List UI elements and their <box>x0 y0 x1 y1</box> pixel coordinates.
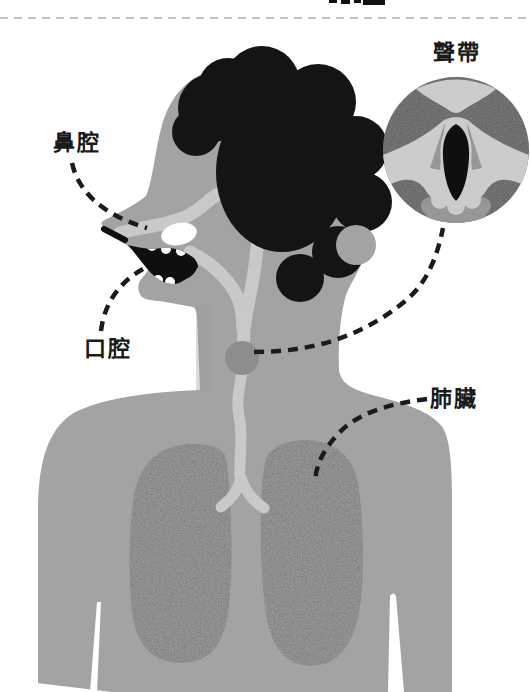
neck-shadow <box>196 305 212 391</box>
illustration-page: 鼻腔 口腔 聲帶 肺臟 <box>0 0 530 692</box>
right-lung <box>261 440 363 666</box>
label-nasal-cavity: 鼻腔 <box>53 132 101 154</box>
oral-leader-line <box>101 269 143 331</box>
inset-glottis <box>443 124 469 201</box>
anatomy-illustration <box>0 0 530 692</box>
label-lungs: 肺臟 <box>430 388 478 410</box>
ear <box>336 225 376 265</box>
clipped-text-fragment <box>329 0 385 5</box>
label-oral-cavity: 口腔 <box>84 338 132 360</box>
vocal-cords-inset <box>383 77 529 226</box>
larynx-dot <box>225 341 259 375</box>
label-vocal-cords: 聲帶 <box>433 42 481 64</box>
left-lung <box>129 444 231 663</box>
